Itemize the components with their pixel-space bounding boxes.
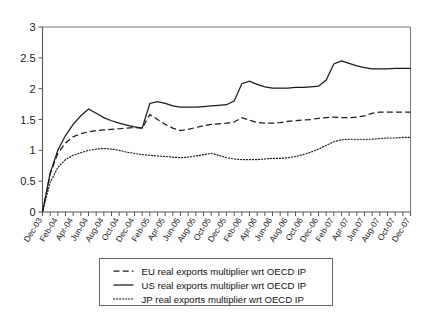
legend-label: EU real exports multiplier wrt OECD IP bbox=[142, 266, 307, 277]
chart-legend: EU real exports multiplier wrt OECD IPUS… bbox=[100, 259, 333, 306]
y-tick-label: 0.5 bbox=[20, 175, 35, 187]
series-line-jp bbox=[43, 137, 411, 212]
series-line-us bbox=[43, 61, 411, 212]
y-tick-label: 2 bbox=[29, 83, 35, 95]
legend-label: US real exports multiplier wrt OECD IP bbox=[142, 280, 307, 291]
y-tick-label: 2.5 bbox=[20, 52, 35, 64]
legend-label: JP real exports multiplier wrt OECD IP bbox=[142, 294, 304, 305]
line-chart: 00.511.522.53 Dec-03Feb-04Apr-04Jun-04Au… bbox=[0, 0, 427, 316]
y-tick-label: 3 bbox=[29, 21, 35, 33]
series-line-eu bbox=[43, 112, 411, 212]
y-axis: 00.511.522.53 bbox=[20, 21, 42, 218]
chart-container: 00.511.522.53 Dec-03Feb-04Apr-04Jun-04Au… bbox=[0, 0, 427, 316]
y-tick-label: 1 bbox=[29, 144, 35, 156]
plot-frame bbox=[43, 27, 411, 212]
y-tick-label: 1.5 bbox=[20, 114, 35, 126]
series-lines bbox=[43, 61, 411, 212]
x-axis: Dec-03Feb-04Apr-04Jun-04Aug-04Oct-04Dec-… bbox=[22, 212, 413, 244]
